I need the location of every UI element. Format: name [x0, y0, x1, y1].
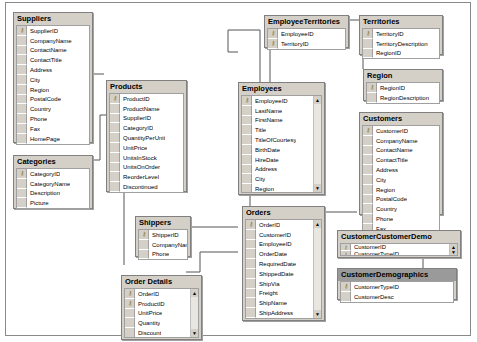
- column-row[interactable]: Phone: [17, 114, 89, 124]
- column-row[interactable]: ⚷ProductID: [110, 94, 183, 104]
- column-row[interactable]: PostalCode: [17, 95, 89, 105]
- column-row[interactable]: ContactName: [17, 46, 89, 56]
- column-row[interactable]: RequiredDate: [246, 259, 321, 269]
- column-row[interactable]: CompanyName: [363, 136, 439, 146]
- column-row[interactable]: Phone: [363, 214, 439, 224]
- table-categories[interactable]: Categories ⚷CategoryID CategoryName Desc…: [13, 155, 93, 209]
- column-row[interactable]: TerritoryDescription: [363, 39, 439, 49]
- column-row[interactable]: ⚷OrderID: [246, 220, 321, 230]
- table-territories[interactable]: Territories ⚷TerritoryID TerritoryDescri…: [359, 15, 443, 55]
- column-row[interactable]: UnitPrice: [125, 309, 198, 319]
- column-row[interactable]: ⚷RegionID: [367, 83, 439, 93]
- column-row[interactable]: RegionID: [363, 49, 439, 59]
- scroll-up-icon[interactable]: ▲: [314, 220, 321, 228]
- scrollbar[interactable]: ▲ ▼: [313, 96, 321, 192]
- scroll-up-icon[interactable]: ▲: [191, 289, 198, 297]
- column-row[interactable]: ⚷CustomerID: [363, 126, 439, 136]
- column-row[interactable]: CategoryID: [110, 123, 183, 133]
- table-products[interactable]: Products ⚷ProductID ProductName Supplier…: [106, 80, 187, 192]
- column-row[interactable]: Address: [17, 65, 89, 75]
- table-orders[interactable]: Orders ⚷OrderID CustomerID EmployeeID Or…: [242, 206, 325, 321]
- column-row[interactable]: HomePage: [17, 134, 89, 144]
- column-row[interactable]: CustomerID: [246, 230, 321, 240]
- column-row[interactable]: ContactTitle: [17, 55, 89, 65]
- column-row[interactable]: Fax: [17, 124, 89, 134]
- column-row[interactable]: UnitsInStock: [110, 153, 183, 163]
- column-row[interactable]: ⚷OrderID: [125, 289, 198, 299]
- column-row[interactable]: ⚷EmployeeID: [242, 96, 321, 106]
- column-row[interactable]: TitleOfCourtesy: [242, 135, 321, 145]
- column-row[interactable]: ShipCity: [246, 318, 321, 319]
- table-region[interactable]: Region ⚷RegionID RegionDescription: [363, 69, 443, 101]
- column-row[interactable]: EmployeeID: [246, 240, 321, 250]
- column-row[interactable]: ⚷CustomerTypeID: [341, 251, 457, 257]
- column-row[interactable]: Country: [17, 104, 89, 114]
- column-row[interactable]: PostalCode: [363, 195, 439, 205]
- column-row[interactable]: Address: [242, 165, 321, 175]
- table-employee-territories[interactable]: EmployeeTerritories ⚷EmployeeID ⚷Territo…: [264, 15, 349, 48]
- scrollbar[interactable]: ▲ ▼: [190, 289, 198, 337]
- scroll-up-icon[interactable]: ▲: [314, 96, 321, 104]
- table-order-details[interactable]: Order Details ⚷OrderID ⚷ProductID UnitPr…: [121, 275, 202, 340]
- column-row[interactable]: ContactName: [363, 146, 439, 156]
- column-row[interactable]: ⚷TerritoryID: [268, 39, 345, 49]
- column-row[interactable]: City: [363, 175, 439, 185]
- table-title: Products: [107, 81, 186, 93]
- column-row[interactable]: Region: [17, 85, 89, 95]
- table-customer-demographics[interactable]: CustomerDemographics ⚷CustomerTypeID Cus…: [337, 268, 457, 300]
- column-row[interactable]: ⚷TerritoryID: [363, 29, 439, 39]
- column-row[interactable]: CompanyName: [17, 36, 89, 46]
- column-row[interactable]: Freight: [246, 289, 321, 299]
- column-row[interactable]: ReorderLevel: [110, 172, 183, 182]
- table-shippers[interactable]: Shippers ⚷ShipperID CompanyName Phone: [135, 216, 191, 257]
- column-row[interactable]: ShippedDate: [246, 269, 321, 279]
- column-row[interactable]: ShipVia: [246, 279, 321, 289]
- column-row[interactable]: ⚷CustomerTypeID: [341, 282, 453, 292]
- scroll-down-icon[interactable]: ▼: [191, 329, 198, 337]
- column-row[interactable]: RegionDescription: [367, 93, 439, 103]
- column-row[interactable]: ⚷SupplierID: [17, 26, 89, 36]
- scroll-down-icon[interactable]: ▼: [450, 249, 457, 255]
- column-row[interactable]: ⚷ShipperID: [139, 230, 187, 240]
- column-row[interactable]: Discount: [125, 328, 198, 338]
- column-row[interactable]: Address: [363, 165, 439, 175]
- column-row[interactable]: City: [17, 75, 89, 85]
- column-row[interactable]: ProductName: [110, 104, 183, 114]
- column-row[interactable]: Quantity: [125, 318, 198, 328]
- column-row[interactable]: ShipName: [246, 298, 321, 308]
- column-row[interactable]: Description: [17, 189, 89, 199]
- column-row[interactable]: OrderDate: [246, 249, 321, 259]
- column-row[interactable]: SupplierID: [110, 114, 183, 124]
- column-row[interactable]: Region: [363, 185, 439, 195]
- column-row[interactable]: ⚷CategoryID: [17, 169, 89, 179]
- column-row[interactable]: Picture: [17, 198, 89, 208]
- column-row[interactable]: ⚷ProductID: [125, 299, 198, 309]
- scrollbar[interactable]: ▲ ▼: [449, 244, 457, 255]
- column-row[interactable]: BirthDate: [242, 145, 321, 155]
- column-row[interactable]: Country: [363, 204, 439, 214]
- table-suppliers[interactable]: Suppliers ⚷SupplierID CompanyName Contac…: [13, 12, 93, 143]
- scroll-down-icon[interactable]: ▼: [314, 184, 321, 192]
- scrollbar[interactable]: ▲ ▼: [313, 220, 321, 318]
- column-row[interactable]: CustomerDesc: [341, 292, 453, 302]
- column-row[interactable]: Region: [242, 184, 321, 193]
- column-row[interactable]: UnitsOnOrder: [110, 163, 183, 173]
- table-employees[interactable]: Employees ⚷EmployeeID LastName FirstName…: [238, 82, 325, 195]
- column-row[interactable]: Title: [242, 125, 321, 135]
- column-row[interactable]: ShipAddress: [246, 308, 321, 318]
- column-row[interactable]: FirstName: [242, 116, 321, 126]
- column-row[interactable]: Phone: [139, 250, 187, 260]
- column-row[interactable]: UnitPrice: [110, 143, 183, 153]
- column-row[interactable]: City: [242, 174, 321, 184]
- column-row[interactable]: HireDate: [242, 155, 321, 165]
- table-customers[interactable]: Customers ⚷CustomerID CompanyName Contac…: [359, 112, 443, 215]
- column-row[interactable]: Discontinued: [110, 182, 183, 192]
- column-row[interactable]: ContactTitle: [363, 155, 439, 165]
- column-row[interactable]: QuantityPerUnit: [110, 133, 183, 143]
- table-customer-customer-demo[interactable]: CustomerCustomerDemo ⚷CustomerID ⚷Custom…: [337, 230, 461, 258]
- column-row[interactable]: ⚷EmployeeID: [268, 29, 345, 39]
- column-row[interactable]: LastName: [242, 106, 321, 116]
- scroll-down-icon[interactable]: ▼: [314, 310, 321, 318]
- column-row[interactable]: CategoryName: [17, 179, 89, 189]
- column-row[interactable]: CompanyName: [139, 240, 187, 250]
